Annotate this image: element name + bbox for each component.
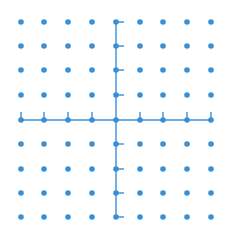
- lattice-point: [184, 141, 190, 147]
- lattice-point: [113, 141, 119, 147]
- lattice-point: [18, 166, 24, 172]
- lattice-point: [41, 166, 47, 172]
- lattice-point: [160, 117, 166, 123]
- lattice-point: [65, 43, 71, 49]
- lattice-point: [18, 190, 24, 196]
- lattice-point: [184, 19, 190, 25]
- lattice-point: [160, 190, 166, 196]
- lattice-point: [137, 141, 143, 147]
- lattice-point: [89, 43, 95, 49]
- lattice-point: [113, 190, 119, 196]
- lattice-point: [89, 141, 95, 147]
- lattice-point: [41, 141, 47, 147]
- lattice-point: [65, 214, 71, 220]
- lattice-point: [89, 67, 95, 73]
- lattice-point: [89, 166, 95, 172]
- lattice-point: [160, 141, 166, 147]
- lattice-point: [137, 117, 143, 123]
- lattice-point: [113, 214, 119, 220]
- lattice-point: [137, 43, 143, 49]
- lattice-point: [137, 166, 143, 172]
- lattice-point: [18, 214, 24, 220]
- lattice-point: [65, 166, 71, 172]
- lattice-point: [41, 19, 47, 25]
- lattice-point: [137, 92, 143, 98]
- lattice-point: [65, 92, 71, 98]
- lattice-point: [208, 92, 214, 98]
- lattice-point: [89, 19, 95, 25]
- lattice-point: [41, 190, 47, 196]
- lattice-point: [113, 43, 119, 49]
- lattice-point: [184, 67, 190, 73]
- lattice-point: [184, 92, 190, 98]
- lattice-point: [113, 92, 119, 98]
- lattice-point: [89, 214, 95, 220]
- lattice-point: [41, 214, 47, 220]
- lattice-point: [208, 19, 214, 25]
- lattice-point: [113, 117, 119, 123]
- lattice-point: [184, 190, 190, 196]
- lattice-point: [160, 67, 166, 73]
- lattice-point: [41, 92, 47, 98]
- lattice-point: [65, 190, 71, 196]
- lattice-point: [137, 190, 143, 196]
- lattice-point: [18, 43, 24, 49]
- lattice-point: [41, 117, 47, 123]
- lattice-point: [137, 214, 143, 220]
- lattice-point: [208, 190, 214, 196]
- lattice-point: [113, 19, 119, 25]
- lattice-point: [208, 141, 214, 147]
- lattice-point: [137, 19, 143, 25]
- lattice-point: [65, 19, 71, 25]
- lattice-point: [18, 19, 24, 25]
- lattice-point: [137, 67, 143, 73]
- lattice-point: [160, 43, 166, 49]
- lattice-point: [65, 117, 71, 123]
- lattice-point: [18, 67, 24, 73]
- lattice-point: [41, 43, 47, 49]
- lattice-point: [160, 92, 166, 98]
- lattice-point: [65, 67, 71, 73]
- lattice-point: [18, 117, 24, 123]
- lattice-point: [41, 67, 47, 73]
- lattice-point: [208, 166, 214, 172]
- lattice-point: [113, 67, 119, 73]
- lattice-point: [208, 43, 214, 49]
- lattice-point: [65, 141, 71, 147]
- lattice-point: [18, 141, 24, 147]
- lattice-point: [208, 214, 214, 220]
- lattice-point: [89, 117, 95, 123]
- lattice-point: [184, 117, 190, 123]
- lattice-point: [160, 19, 166, 25]
- lattice-point: [89, 190, 95, 196]
- lattice-point: [160, 214, 166, 220]
- lattice-point: [208, 117, 214, 123]
- lattice-point: [208, 67, 214, 73]
- lattice-point: [184, 166, 190, 172]
- lattice-point: [18, 92, 24, 98]
- lattice-point: [89, 92, 95, 98]
- lattice-point: [184, 43, 190, 49]
- lattice-point: [113, 166, 119, 172]
- lattice-diagram: [0, 0, 229, 237]
- lattice-point: [184, 214, 190, 220]
- lattice-point: [160, 166, 166, 172]
